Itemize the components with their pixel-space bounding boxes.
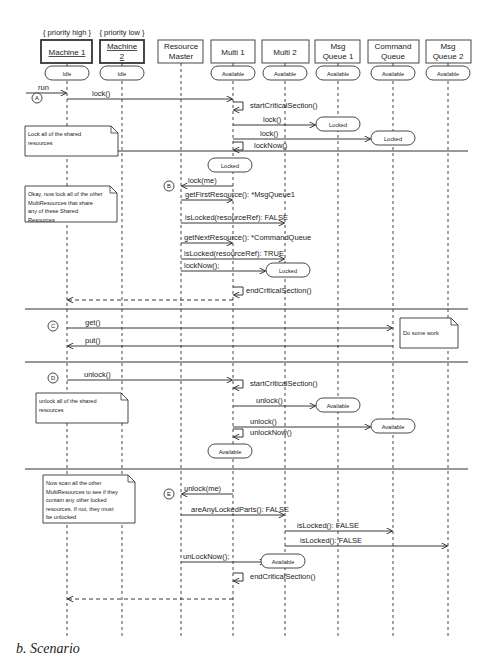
lifeline-label: Machine 1	[49, 48, 86, 57]
message-label: lock()	[260, 129, 279, 138]
message-label: unlock()	[250, 417, 277, 426]
message: getFirstResource(): *MsgQueue1	[181, 190, 295, 200]
lifeline-label: Queue 1	[323, 52, 354, 61]
message: startCriticalSection()	[233, 379, 318, 388]
message: lock()	[233, 115, 315, 125]
message-label: lockNow()	[254, 141, 288, 150]
lifeline-label: Multi 2	[273, 48, 297, 57]
note: Do some work	[400, 318, 458, 348]
message: areAnyLockedParts(): FALSE	[181, 505, 289, 515]
message-label: isLocked(resourceRef): FALSE	[185, 213, 288, 222]
state-label: Available	[272, 559, 295, 565]
lifeline-multi1: Multi 1Available	[211, 40, 255, 638]
message-label: unlock(me)	[184, 484, 222, 493]
message-label: run	[38, 83, 49, 92]
message: startCriticalSection()	[233, 101, 318, 110]
message: unlock()	[233, 417, 370, 427]
step-marker-e: E	[164, 489, 174, 499]
initial-state-label: Idle	[63, 71, 72, 77]
message-label: getNextResource(): *CommandQueue	[184, 233, 311, 242]
message: unlockNow()	[233, 428, 292, 437]
message-label: unLockNow();	[183, 552, 229, 561]
state-box: Locked	[316, 117, 360, 131]
initial-state-label: Available	[274, 71, 296, 77]
state-label: Available	[327, 403, 350, 409]
message-label: unlock()	[84, 370, 111, 379]
state-label: Available	[219, 449, 242, 455]
message-label: isLocked(): FALSE	[300, 536, 362, 545]
note-text: Lock all of the shared	[28, 131, 81, 137]
step-marker-label: A	[35, 95, 39, 101]
message: put()	[68, 336, 393, 346]
note: Lock all of the sharedresources	[25, 126, 118, 156]
lifeline-label: Machine	[107, 42, 138, 51]
lifeline-label: Multi 1	[221, 48, 245, 57]
note-text: MultiResources that share	[28, 200, 93, 206]
initial-state-label: Available	[327, 71, 349, 77]
lifeline-label: 2	[120, 52, 125, 61]
state-box: Available	[316, 398, 360, 412]
message: unlock(me)	[182, 484, 233, 494]
state-box: Locked	[371, 131, 415, 145]
state-label: Available	[382, 424, 405, 430]
step-marker-d: D	[48, 373, 58, 383]
stereotype-label: { priority low }	[99, 28, 145, 37]
message-label: endCriticalSection()	[250, 572, 316, 581]
message-label: put()	[85, 336, 101, 345]
message-label: lock(me)	[188, 176, 217, 185]
state-box: Available	[208, 444, 252, 458]
note: Okay, now lock all of the otherMultiReso…	[25, 186, 117, 223]
message-label: isLocked(resourceRef): TRUE	[184, 249, 284, 258]
step-marker-b: B	[164, 181, 174, 191]
note-text: resources	[39, 407, 64, 413]
state-label: Locked	[221, 163, 239, 169]
message-label: areAnyLockedParts(): FALSE	[191, 505, 289, 514]
note-text: unlock all of the shared	[39, 398, 97, 404]
note: Now scan all the otherMultiResources to …	[43, 475, 135, 523]
message: lock()	[67, 89, 232, 99]
step-marker-label: D	[51, 375, 55, 381]
lifeline-label: Msg	[440, 42, 455, 51]
message-label: endCriticalSection()	[246, 286, 312, 295]
message-label: unlockNow()	[250, 428, 292, 437]
message: run	[26, 83, 66, 93]
note-text: Okay, now lock all of the other	[28, 191, 103, 197]
message: lock(me)	[182, 176, 233, 186]
message: endCriticalSection()	[233, 286, 312, 295]
stereotype-label: { priority high }	[43, 28, 91, 37]
step-marker-label: E	[167, 491, 171, 497]
note: unlock all of the sharedresources	[36, 393, 128, 423]
lifeline-label: Resource	[164, 42, 199, 51]
state-label: Locked	[329, 122, 347, 128]
message: endCriticalSection()	[233, 572, 316, 581]
message-label: unlock()	[256, 396, 283, 405]
state-label: Locked	[384, 136, 402, 142]
initial-state-label: Available	[437, 71, 459, 77]
message: isLocked(): FALSE	[285, 536, 447, 546]
message: getNextResource(): *CommandQueue	[181, 233, 311, 243]
step-marker-c: C	[48, 321, 58, 331]
state-box: Available	[261, 554, 305, 568]
step-marker-label: C	[51, 323, 55, 329]
lifeline-resource-master: ResourceMaster	[158, 40, 203, 638]
note-text: MultiResources to see if they	[46, 489, 118, 495]
lifeline-label: Master	[169, 52, 194, 61]
note-text: resources	[28, 140, 53, 146]
note-text: any of these Shared	[28, 208, 78, 214]
note-text: be unlocked	[46, 514, 76, 520]
message: unlock()	[67, 370, 232, 380]
message: isLocked(resourceRef): TRUE	[181, 249, 284, 259]
state-label: Locked	[279, 268, 297, 274]
message: lockNow()	[233, 141, 288, 150]
lifeline-label: Queue 2	[433, 52, 464, 61]
message-label: isLocked(): FALSE	[297, 521, 359, 530]
message: unlock()	[233, 396, 315, 406]
message-label: get()	[85, 318, 101, 327]
message: lockNow();	[181, 261, 265, 271]
lifeline-label: Queue	[381, 52, 406, 61]
step-marker-label: B	[167, 183, 171, 189]
lifeline-label: Msg	[330, 42, 345, 51]
message: isLocked(): FALSE	[285, 521, 392, 531]
initial-state-label: Available	[222, 71, 244, 77]
initial-state-label: Idle	[118, 71, 127, 77]
